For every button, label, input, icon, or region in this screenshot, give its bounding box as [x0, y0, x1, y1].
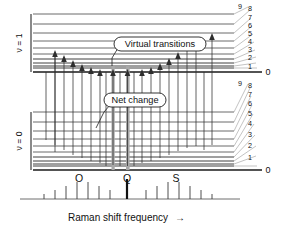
transition-arrow [157, 63, 163, 158]
raman-energy-level-diagram: 9 8 7 6 5 4 3 2 1 0 [0, 0, 293, 228]
callout-net-change[interactable]: Net change [96, 93, 166, 128]
lower-vibrational-manifold [33, 112, 262, 170]
axis-arrow-icon: → [175, 212, 185, 223]
lower-baseline-zero: 0 [265, 165, 270, 175]
lower-perspective-fan [234, 84, 257, 166]
upper-perspective-fan [234, 7, 257, 68]
perspective-line [234, 63, 256, 66]
transition-arrow [193, 37, 199, 146]
transition-arrow [209, 33, 215, 145]
transition-arrow [139, 69, 145, 163]
v0-label: ν = 0 [14, 131, 24, 150]
transition-arrow [110, 69, 116, 165]
rotational-number: 3 [248, 130, 252, 139]
raman-shift-axis-label: Raman shift frequency [68, 212, 168, 223]
branch-label-s: S [172, 172, 179, 184]
transition-arrow [148, 67, 154, 161]
rotational-number: 5 [248, 109, 252, 118]
rotational-number: 7 [248, 90, 252, 99]
rotational-number: 6 [248, 99, 252, 108]
rotational-number: 9 [238, 79, 242, 88]
rotational-number: 1 [248, 62, 252, 71]
diagram-canvas: 9 8 7 6 5 4 3 2 1 0 [0, 0, 293, 228]
upper-baseline-zero: 0 [265, 67, 270, 77]
v1-label: ν = 1 [14, 33, 24, 52]
callout-virtual-transitions-label: Virtual transitions [125, 39, 196, 49]
axis-label-group: Raman shift frequency → [68, 212, 185, 223]
callout-net-change-label: Net change [112, 95, 159, 105]
rotational-number: 8 [248, 81, 252, 90]
transition-arrow [70, 60, 76, 155]
rotational-number: 1 [248, 153, 252, 162]
callout-virtual-transitions[interactable]: Virtual transitions [112, 37, 206, 66]
transition-arrow [88, 67, 94, 161]
rotational-number: 9 [238, 2, 242, 11]
rotational-number: 4 [248, 119, 252, 128]
rotational-number: 2 [248, 141, 252, 150]
transition-arrow [175, 52, 181, 151]
perspective-line [234, 156, 256, 164]
transition-arrow [184, 44, 190, 148]
net-change-bars [112, 66, 130, 170]
upper-rotational-numbers: 9 8 7 6 5 4 3 2 1 0 [238, 2, 271, 77]
branch-label-o: O [75, 172, 83, 184]
transition-arrow [61, 55, 67, 150]
rotational-number: 8 [248, 4, 252, 13]
transition-arrow [79, 64, 85, 158]
vibrational-level-labels: ν = 1 ν = 0 [14, 14, 31, 170]
rotational-number: 2 [248, 53, 252, 62]
transition-arrow [52, 50, 58, 152]
